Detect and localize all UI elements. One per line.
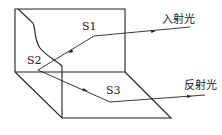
corner-reflection-diagram: S1 S2 S3 入射光 反射光 <box>0 0 222 135</box>
arrow-icon <box>83 88 89 91</box>
label-s3: S3 <box>106 84 121 97</box>
reflected-ray <box>38 70 205 102</box>
arrow-icon <box>187 95 192 98</box>
label-incident-light: 入射光 <box>162 12 195 26</box>
incident-ray <box>38 27 190 70</box>
floor-left-edge <box>15 72 171 118</box>
label-s1: S1 <box>82 20 97 33</box>
label-reflected-light: 反射光 <box>184 78 217 92</box>
label-s2: S2 <box>27 54 42 67</box>
